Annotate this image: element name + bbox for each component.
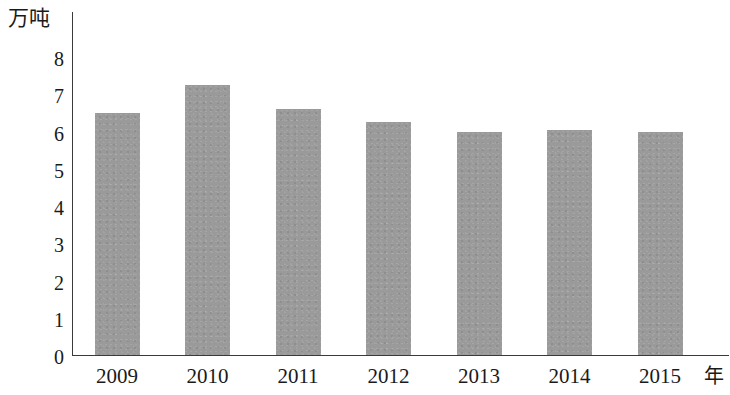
x-tick-label: 2010 xyxy=(163,360,253,392)
y-tick-label: 3 xyxy=(4,235,64,255)
y-tick-label: 2 xyxy=(4,273,64,293)
y-tick-label: 6 xyxy=(4,124,64,144)
x-tick-label: 2011 xyxy=(253,360,343,392)
x-tick-label: 2015 xyxy=(615,360,705,392)
bar xyxy=(276,109,321,355)
x-tick-label: 2013 xyxy=(434,360,524,392)
y-tick-label: 8 xyxy=(4,49,64,69)
y-axis-tick-labels: 876543210 xyxy=(0,0,64,395)
y-tick-label: 1 xyxy=(4,310,64,330)
bar xyxy=(638,132,683,356)
x-tick-label: 2014 xyxy=(525,360,615,392)
bar xyxy=(366,122,411,355)
bar-chart: 万吨 876543210 年 2009201020112012201320142… xyxy=(0,0,730,395)
y-tick-label: 7 xyxy=(4,86,64,106)
x-axis-tick-labels: 年 2009201020112012201320142015 xyxy=(0,360,730,395)
x-axis-line xyxy=(72,355,729,356)
bar xyxy=(185,85,230,355)
y-tick-label: 4 xyxy=(4,198,64,218)
bar xyxy=(457,132,502,356)
bar xyxy=(547,130,592,355)
x-tick-label: 2009 xyxy=(72,360,162,392)
plot-area xyxy=(73,12,729,355)
x-tick-label: 2012 xyxy=(344,360,434,392)
x-axis-unit-label: 年 xyxy=(704,360,724,392)
y-tick-label: 5 xyxy=(4,161,64,181)
bar xyxy=(95,113,140,355)
